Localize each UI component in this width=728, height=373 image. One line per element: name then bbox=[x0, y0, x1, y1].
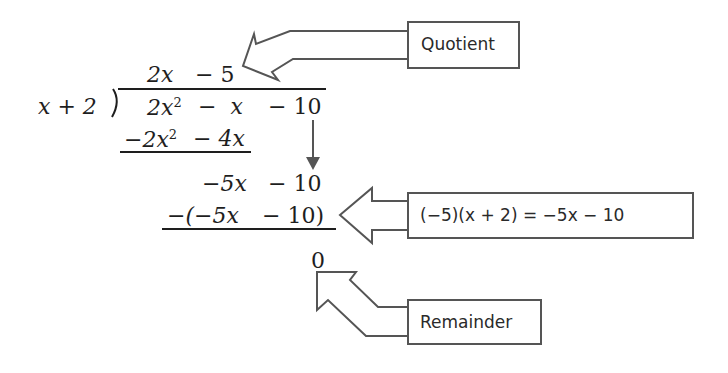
product-callout-arrow bbox=[340, 188, 408, 243]
diagram-graphics bbox=[0, 0, 728, 373]
remainder-callout-arrow bbox=[317, 272, 408, 336]
division-bracket bbox=[112, 89, 117, 117]
dividend-term-2: − x bbox=[198, 96, 243, 118]
bring-down-arrow bbox=[306, 120, 320, 170]
step2-subtract-term-2: − 10) bbox=[262, 205, 324, 227]
step1-underline bbox=[120, 151, 251, 153]
quotient-term-2: − 5 bbox=[195, 64, 234, 86]
quotient-label: Quotient bbox=[421, 36, 495, 53]
step2-subtract-term-1: −(−5x bbox=[167, 205, 239, 227]
divisor: x + 2 bbox=[38, 96, 97, 118]
step2-term-1: −5x bbox=[202, 173, 247, 195]
remainder-label: Remainder bbox=[420, 314, 512, 331]
quotient-callout-arrow bbox=[243, 31, 408, 80]
quotient-term-1: 2x bbox=[147, 64, 173, 86]
step1-term-1: −2x2 bbox=[124, 128, 177, 151]
remainder-value: 0 bbox=[311, 250, 325, 272]
dividend-term-1: 2x2 bbox=[147, 96, 182, 119]
step1-term-2: − 4x bbox=[193, 128, 245, 150]
step2-term-2: − 10 bbox=[268, 173, 321, 195]
product-label: (−5)(x + 2) = −5x − 10 bbox=[420, 207, 624, 224]
dividend-term-3: − 10 bbox=[268, 96, 321, 118]
step2-underline bbox=[162, 228, 336, 230]
